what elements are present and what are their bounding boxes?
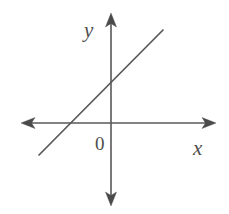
x-axis-group	[21, 118, 216, 129]
origin-label: 0	[95, 134, 105, 153]
y-axis-group	[106, 13, 117, 206]
figure-canvas: y x 0	[0, 0, 229, 214]
y-axis-label: y	[84, 20, 93, 41]
coordinate-plane-svg	[0, 0, 229, 214]
x-axis-label: x	[193, 138, 202, 159]
